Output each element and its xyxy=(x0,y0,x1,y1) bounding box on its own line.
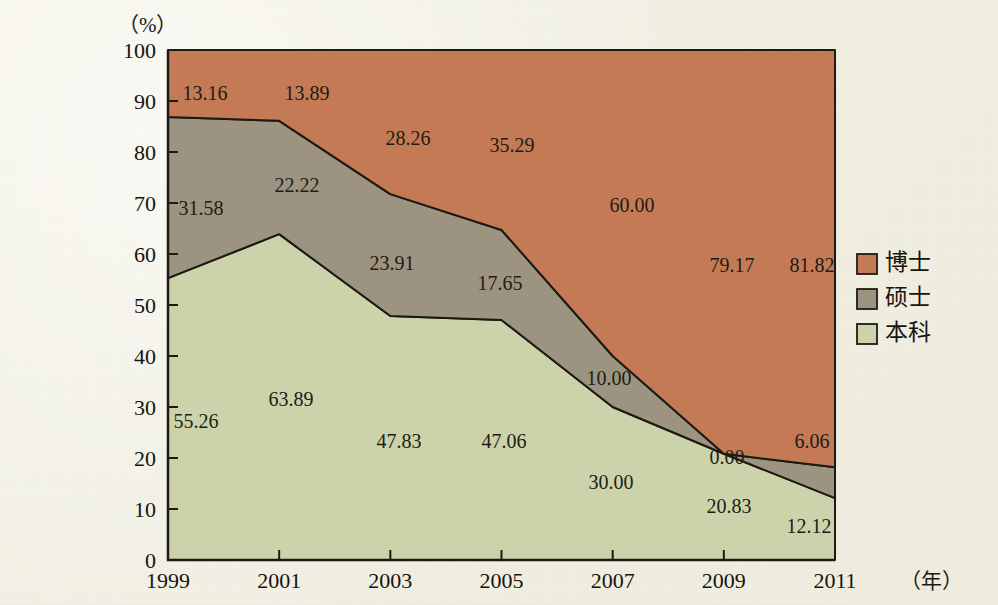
value-label: 81.82 xyxy=(790,254,835,276)
chart-page: 0102030405060708090100 19992001200320052… xyxy=(0,0,998,605)
legend-swatch-博士[interactable] xyxy=(857,254,877,274)
x-tick-label: 2003 xyxy=(368,568,412,593)
y-tick-label: 50 xyxy=(134,293,156,318)
y-tick-label: 20 xyxy=(134,446,156,471)
value-label: 10.00 xyxy=(587,367,632,389)
y-tick-label: 90 xyxy=(134,89,156,114)
value-label: 12.12 xyxy=(787,515,832,537)
y-tick-label: 30 xyxy=(134,395,156,420)
legend-swatch-本科[interactable] xyxy=(857,324,877,344)
x-tick-label: 2009 xyxy=(702,568,746,593)
value-label: 47.06 xyxy=(482,430,527,452)
stacked-area-chart: 0102030405060708090100 19992001200320052… xyxy=(0,0,998,605)
value-label: 30.00 xyxy=(589,471,634,493)
value-label: 0.00 xyxy=(710,446,745,468)
x-tick-label: 1999 xyxy=(146,568,190,593)
area-series-group xyxy=(168,50,835,560)
y-tick-label: 40 xyxy=(134,344,156,369)
value-label: 20.83 xyxy=(707,495,752,517)
x-tick-label: 2001 xyxy=(257,568,301,593)
legend-swatch-硕士[interactable] xyxy=(857,289,877,309)
x-tick-label: 2011 xyxy=(813,568,856,593)
y-tick-label: 10 xyxy=(134,497,156,522)
chart-legend: 博士硕士本科 xyxy=(857,249,931,345)
y-tick-label: 80 xyxy=(134,140,156,165)
y-tick-label: 70 xyxy=(134,191,156,216)
value-label: 13.16 xyxy=(183,82,228,104)
legend-label-博士: 博士 xyxy=(885,249,931,275)
value-label: 23.91 xyxy=(370,252,415,274)
value-label: 17.65 xyxy=(478,272,523,294)
y-tick-label: 60 xyxy=(134,242,156,267)
value-label: 6.06 xyxy=(795,430,830,452)
y-axis-unit-label: （%） xyxy=(118,13,178,37)
x-axis-unit-label: （年） xyxy=(900,569,963,593)
value-label: 31.58 xyxy=(179,197,224,219)
value-label: 22.22 xyxy=(275,174,320,196)
legend-label-硕士: 硕士 xyxy=(885,284,931,310)
value-label: 60.00 xyxy=(610,194,655,216)
legend-label-本科: 本科 xyxy=(885,319,931,345)
value-label: 28.26 xyxy=(386,127,431,149)
x-tick-label: 2005 xyxy=(480,568,524,593)
value-label: 79.17 xyxy=(710,254,755,276)
value-label: 13.89 xyxy=(285,82,330,104)
y-tick-label: 100 xyxy=(123,38,156,63)
value-label: 55.26 xyxy=(174,410,219,432)
value-label: 63.89 xyxy=(269,388,314,410)
value-label: 35.29 xyxy=(490,134,535,156)
value-label: 47.83 xyxy=(377,430,422,452)
x-tick-label: 2007 xyxy=(591,568,635,593)
